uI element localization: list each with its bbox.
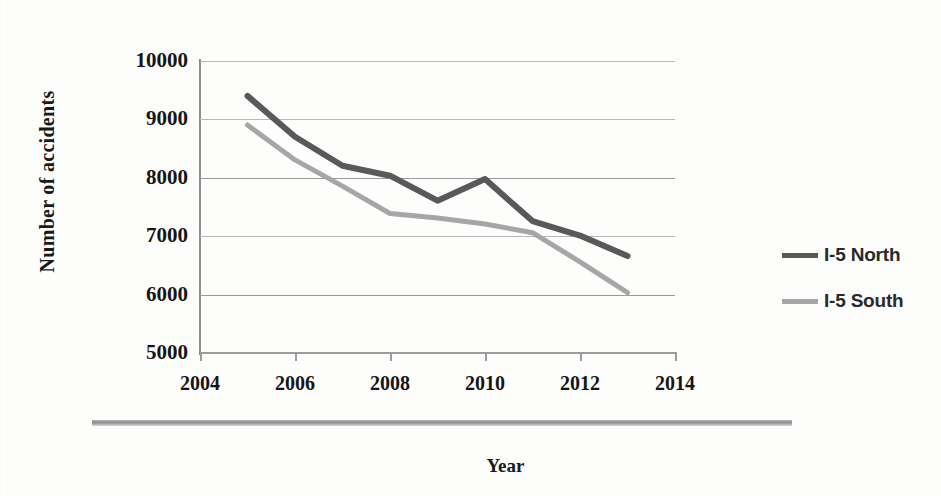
- plot-area: [200, 61, 675, 352]
- gridline-7000: [200, 236, 675, 237]
- x-tick-label: 2006: [255, 372, 335, 395]
- y-tick-label: 10000: [70, 50, 188, 71]
- y-tick-label: 6000: [70, 284, 188, 305]
- chart-figure: Number of accidents 10000 9000 8000 7000…: [0, 0, 941, 496]
- x-tick-mark: [295, 352, 297, 361]
- x-tick-mark: [485, 352, 487, 361]
- x-tick-label: 2014: [635, 372, 715, 395]
- legend-swatch-icon: [782, 253, 818, 258]
- y-tick-label: 8000: [70, 167, 188, 188]
- x-tick-mark: [200, 352, 202, 361]
- legend-label: I-5 North: [824, 244, 900, 266]
- x-axis-title: Year: [0, 455, 941, 477]
- x-tick-mark: [580, 352, 582, 361]
- x-tick-label: 2012: [540, 372, 620, 395]
- gridline-10000: [200, 61, 675, 62]
- x-tick-mark: [390, 352, 392, 361]
- x-axis-baseline: [92, 420, 792, 426]
- x-tick-label: 2010: [445, 372, 525, 395]
- legend-item-i-5-south: I-5 South: [782, 278, 937, 324]
- legend-item-i-5-north: I-5 North: [782, 232, 937, 278]
- legend: I-5 North I-5 South: [782, 232, 937, 324]
- x-tick-label: 2008: [350, 372, 430, 395]
- gridline-8000: [200, 178, 675, 179]
- gridline-9000: [200, 119, 675, 120]
- legend-swatch-icon: [782, 299, 818, 304]
- y-tick-label: 9000: [70, 108, 188, 129]
- y-tick-label: 7000: [70, 225, 188, 246]
- y-tick-label: 5000: [70, 342, 188, 363]
- y-axis-title: Number of accidents: [36, 57, 59, 307]
- gridline-6000: [200, 295, 675, 296]
- x-tick-mark: [675, 352, 677, 361]
- x-tick-label: 2004: [160, 372, 240, 395]
- x-axis-line: [200, 352, 677, 354]
- legend-label: I-5 South: [824, 290, 903, 312]
